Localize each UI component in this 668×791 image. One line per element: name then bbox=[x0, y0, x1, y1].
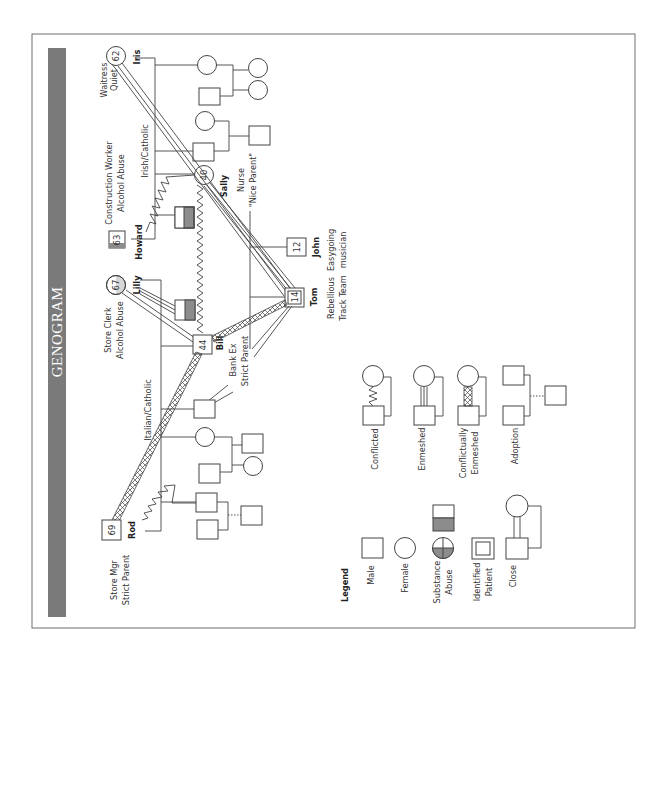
legend-label-female: Female bbox=[400, 563, 410, 593]
person-uncle-1-spouse[interactable] bbox=[199, 88, 220, 105]
person-aunt-1[interactable] bbox=[198, 56, 217, 75]
svg-text:12: 12 bbox=[292, 242, 302, 253]
svg-text:62: 62 bbox=[111, 51, 121, 62]
note-john-1: Easygoing bbox=[326, 229, 336, 271]
label-iris: Iris bbox=[132, 49, 142, 64]
person-paternal-sibling-3[interactable] bbox=[196, 493, 217, 512]
svg-text:40: 40 bbox=[199, 170, 209, 181]
label-john: John bbox=[311, 237, 321, 259]
legend-label-conflictually-2: Enmeshed bbox=[470, 431, 480, 474]
legend-label-substance-1: Substance bbox=[432, 561, 442, 604]
legend-female-icon bbox=[395, 538, 416, 559]
note-sally-2: "Nice Parent" bbox=[248, 153, 258, 207]
family-label-maternal: Irish/Catholic bbox=[140, 124, 150, 177]
legend-label-close: Close bbox=[508, 565, 518, 587]
page-title: GENOGRAM bbox=[49, 287, 65, 378]
legend-substance-square-icon bbox=[433, 505, 454, 531]
person-lilly[interactable]: 67 bbox=[107, 276, 126, 295]
label-sally: Sally bbox=[219, 174, 229, 197]
person-aunt-2-spouse[interactable] bbox=[196, 112, 215, 131]
person-paternal-cousin-1[interactable] bbox=[242, 434, 263, 453]
svg-text:14: 14 bbox=[290, 292, 300, 303]
label-tom: Tom bbox=[309, 288, 319, 307]
legend-substance-circle-icon bbox=[433, 538, 454, 559]
person-cousin-3[interactable] bbox=[249, 126, 270, 145]
person-john[interactable]: 12 bbox=[287, 238, 306, 256]
person-paternal-cousin-2[interactable] bbox=[244, 457, 263, 476]
note-rod-2: Strict Parent bbox=[121, 554, 131, 605]
note-howard-1: Construction Worker bbox=[104, 141, 114, 225]
note-rod-1: Store Mgr bbox=[109, 559, 119, 600]
person-paternal-sibling-3-spouse[interactable] bbox=[197, 520, 218, 539]
label-howard: Howard bbox=[134, 224, 144, 260]
legend-label-identified-2: Patient bbox=[484, 567, 494, 596]
note-sally-1: Nurse bbox=[236, 168, 246, 192]
legend-label-conflictually-1: Conflictually bbox=[458, 428, 468, 479]
legend-male-icon bbox=[362, 538, 383, 558]
note-lilly-1: Store Clerk bbox=[103, 307, 113, 353]
svg-text:67: 67 bbox=[111, 280, 121, 291]
family-label-paternal: Italian/Catholic bbox=[143, 379, 153, 440]
note-tom-1: Rebellious bbox=[326, 277, 336, 319]
label-rod: Rod bbox=[127, 521, 137, 539]
legend-label-substance-2: Abuse bbox=[444, 569, 454, 594]
legend-identified-patient-icon bbox=[472, 538, 494, 559]
person-tom-identified-patient[interactable]: 14 bbox=[285, 288, 304, 307]
person-paternal-sibling-2[interactable] bbox=[196, 428, 215, 447]
person-maternal-sibling-substance[interactable] bbox=[175, 207, 194, 228]
genogram-canvas: GENOGRAM 62 Iris Waitress Quiet 40 Sally… bbox=[0, 0, 668, 791]
legend-heading: Legend bbox=[340, 568, 350, 602]
note-bill-2: Strict Parent bbox=[240, 335, 250, 386]
svg-text:63: 63 bbox=[112, 235, 122, 246]
note-iris-1: Waitress bbox=[99, 63, 109, 98]
person-paternal-sibling-substance[interactable] bbox=[175, 300, 195, 320]
note-howard-2: Alcohol Abuse bbox=[116, 154, 126, 212]
svg-text:69: 69 bbox=[107, 525, 117, 536]
note-lilly-2: Alcohol Abuse bbox=[115, 301, 125, 359]
legend-label-identified-1: Identified bbox=[472, 563, 482, 602]
person-bill[interactable]: 44 bbox=[193, 335, 212, 354]
note-john-2: musician bbox=[338, 232, 348, 269]
person-cousin-1[interactable] bbox=[249, 59, 268, 78]
legend-label-conflicted: Conflicted bbox=[370, 428, 380, 469]
svg-text:44: 44 bbox=[198, 340, 208, 351]
person-paternal-sibling-2-spouse[interactable] bbox=[199, 464, 220, 483]
person-howard[interactable]: 63 bbox=[109, 231, 125, 248]
person-rod[interactable]: 69 bbox=[102, 520, 121, 540]
legend-label-adoption: Adoption bbox=[510, 428, 520, 465]
legend-label-enmeshed: Enmeshed bbox=[417, 427, 427, 470]
person-cousin-2[interactable] bbox=[249, 81, 268, 100]
person-uncle-2[interactable] bbox=[193, 143, 214, 161]
note-tom-2: Track Team bbox=[338, 275, 348, 322]
legend-label-male: Male bbox=[366, 565, 376, 584]
note-bill-1: Bank Ex bbox=[228, 343, 238, 376]
person-iris[interactable]: 62 bbox=[107, 47, 126, 66]
person-paternal-sibling-1[interactable] bbox=[194, 400, 215, 418]
person-adopted-cousin[interactable] bbox=[241, 506, 262, 525]
